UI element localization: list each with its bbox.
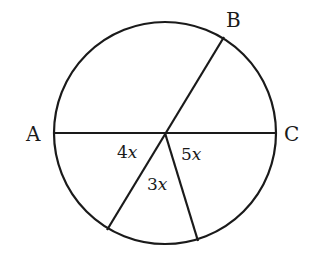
angle-label-4x: 4x: [117, 142, 138, 162]
point-label-c: C: [284, 122, 299, 146]
angle-label-5x: 5x: [181, 144, 202, 164]
angle-label-3x: 3x: [147, 174, 168, 194]
point-label-a: A: [25, 122, 41, 146]
point-label-b: B: [226, 8, 241, 32]
circle-diagram: A B C 4x 3x 5x: [0, 0, 314, 262]
